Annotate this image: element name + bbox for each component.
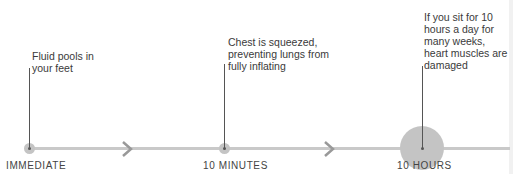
stage-label-10-hours: 10 HOURS [397,160,452,171]
stage-note-immediate: Fluid pools in your feet [32,50,102,74]
leader-line [29,68,30,148]
arrow-right-icon [322,140,336,158]
stage-note-10-minutes: Chest is squeezed, preventing lungs from… [228,36,338,72]
stage-note-10-hours: If you sit for 10 hours a day for many w… [424,11,510,71]
arrow-right-icon [120,140,134,158]
stage-label-10-minutes: 10 MINUTES [203,160,268,171]
leader-line [422,66,423,148]
leader-line [224,64,225,148]
stage-label-immediate: IMMEDIATE [6,160,66,171]
